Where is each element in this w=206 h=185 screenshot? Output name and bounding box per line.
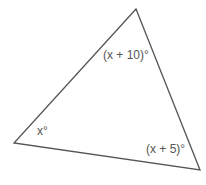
triangle-figure bbox=[0, 0, 206, 185]
angle-label-left: x° bbox=[37, 124, 48, 138]
angle-label-bottom-right: (x + 5)° bbox=[146, 142, 185, 156]
angle-label-top: (x + 10)° bbox=[103, 48, 149, 62]
